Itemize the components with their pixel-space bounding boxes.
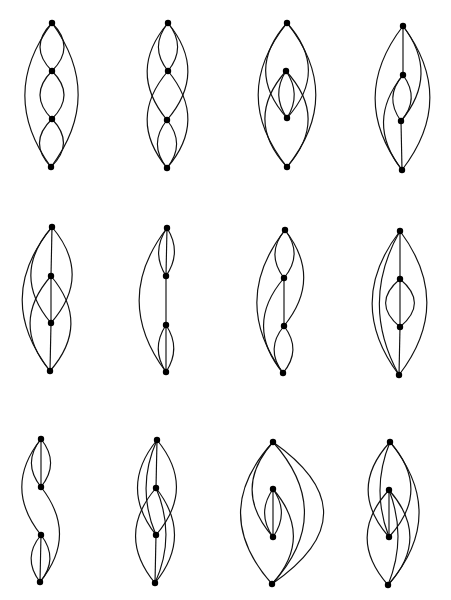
graph-9-edge [31,535,41,582]
graph-6-edge [166,325,174,372]
graph-2-edge [167,120,177,168]
graph-6-edge [166,228,167,276]
graph-1-vertex [49,68,55,74]
graph-2-vertex [164,117,170,123]
graph-11-vertex [270,439,276,445]
graph-6-vertex [163,322,169,328]
graph-7-edge [284,230,294,278]
graph-12-vertex [385,582,391,588]
graph-5-vertex [47,368,53,374]
graph-5-edge [50,323,51,371]
graph-2-vertex [164,165,170,171]
graph-5-edge [51,227,52,276]
graph-1-edge [40,23,52,71]
graph-6-edge [139,228,167,372]
multigraph-diagram [0,0,451,600]
graph-2-vertex [165,68,171,74]
graph-10-vertex [154,437,160,443]
graph-1-vertex [49,116,55,122]
graph-4 [375,23,430,173]
graph-6 [139,225,174,375]
graph-7-edge [274,326,284,373]
graph-7-vertex [281,323,287,329]
graph-3-vertex [284,164,290,170]
graph-8-edge [399,327,400,375]
graph-2 [147,20,188,171]
graph-8-vertex [397,228,403,234]
graph-8-edge [400,279,414,327]
graph-3-vertex [283,68,289,74]
graph-10 [136,437,177,586]
graph-5 [22,224,72,374]
graph-11-vertex [270,534,276,540]
graph-4-vertex [398,118,404,124]
graph-11 [241,439,324,587]
graph-12-vertex [386,487,392,493]
graph-7-edge [257,230,285,373]
graph-10-vertex [153,532,159,538]
graph-7-edge [283,326,293,373]
graph-6-vertex [163,369,169,375]
graph-5-vertex [49,224,55,230]
graph-10-vertex [152,580,158,586]
graph-8-vertex [396,372,402,378]
graph-1-vertex [48,164,54,170]
graph-10-edge [155,535,156,583]
graph-10-edge [156,440,157,488]
graph-8-vertex [397,324,403,330]
graphs-layer [22,20,430,588]
graph-1-edge [52,23,64,71]
graph-3-edge [258,23,287,167]
graph-1-edge [52,71,64,119]
graph-11-edge [272,442,324,584]
graph-9-vertex [38,484,44,490]
graph-8-edge [399,231,427,375]
graph-5-vertex [48,273,54,279]
graph-3 [258,20,316,170]
graph-11-edge [265,489,273,537]
graph-8-edge [379,231,400,375]
graph-7-vertex [280,370,286,376]
graph-4-edge [401,121,402,170]
graph-4-vertex [400,72,406,78]
graph-5-vertex [48,320,54,326]
graph-9 [22,436,60,585]
graph-3-edge [287,23,316,167]
graph-6-vertex [164,225,170,231]
graph-8 [372,228,427,378]
graph-12-vertex [386,534,392,540]
graph-1-edge [51,119,64,167]
graph-7 [257,227,304,376]
graph-12 [367,439,419,588]
graph-8-vertex [397,276,403,282]
graph-9-vertex [37,579,43,585]
graph-8-edge [386,279,400,327]
graph-12-edge [388,442,419,585]
graph-12-vertex [387,439,393,445]
graph-1 [25,20,78,170]
graph-1-vertex [49,20,55,26]
graph-9-edge [40,535,41,582]
graph-11-vertex [269,581,275,587]
graph-3-vertex [284,20,290,26]
graph-5-edge [22,227,52,371]
graph-2-edge [158,23,168,71]
graph-6-vertex [163,273,169,279]
graph-4-vertex [400,23,406,29]
graph-10-vertex [153,485,159,491]
graph-9-edge [41,439,51,487]
graph-7-vertex [282,227,288,233]
graph-9-vertex [38,532,44,538]
graph-1-edge [40,71,52,119]
graph-6-edge [158,325,166,372]
graph-11-vertex [270,486,276,492]
graph-11-edge [273,489,281,537]
graph-4-vertex [399,167,405,173]
graph-9-vertex [38,436,44,442]
graph-7-vertex [281,275,287,281]
graph-1-edge [25,23,52,167]
graph-2-vertex [165,20,171,26]
graph-3-vertex [284,115,290,121]
